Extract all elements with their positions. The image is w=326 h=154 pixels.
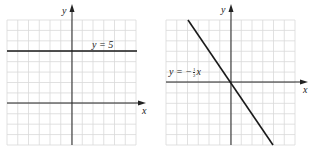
x-axis-label: x [142,106,146,116]
y-axis-label: y [62,6,66,16]
graph-sloped-line: y x y = −12x [163,0,326,154]
y-axis-label: y [221,5,225,15]
line-label: y = 5 [92,40,113,50]
graph-horizontal-line: y x y = 5 [0,0,163,154]
line-label: y = −12x [169,67,201,78]
y-axis-arrow-icon [70,4,75,12]
coordinate-plane-left [0,0,163,154]
y-axis-arrow-icon [229,4,234,12]
line-label-suffix: x [196,66,200,77]
line-label-prefix: y = − [169,66,192,77]
x-axis-label: x [303,85,307,95]
